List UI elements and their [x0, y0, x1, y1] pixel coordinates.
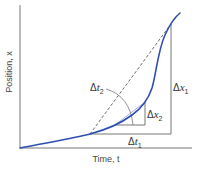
y-axis-title: Position, x — [4, 51, 14, 93]
dx1-label: Δx1 — [173, 81, 189, 95]
position-time-diagram: Δt2 Δx1 Δx2 Δt1 Time, t Position, x — [0, 0, 198, 174]
x-axis-title: Time, t — [92, 154, 120, 164]
tangent-line — [115, 102, 145, 125]
dt1-label: Δt1 — [128, 135, 142, 149]
dt2-pointer-arc — [106, 89, 133, 125]
dx2-label: Δx2 — [147, 108, 163, 122]
dt2-label: Δt2 — [90, 81, 104, 95]
diagram-canvas: Δt2 Δx1 Δx2 Δt1 Time, t Position, x — [0, 0, 198, 174]
position-curve — [20, 13, 180, 148]
